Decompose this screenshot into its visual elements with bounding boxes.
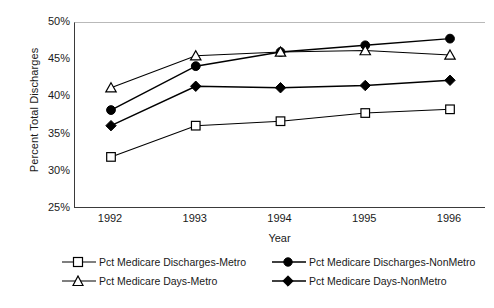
y-tick-label: 25% <box>34 202 70 213</box>
data-point <box>275 83 285 93</box>
x-tick-label: 1996 <box>437 212 461 224</box>
legend-label: Pct Medicare Days-Metro <box>99 275 217 287</box>
x-axis-tick-labels: 19921993199419951996 <box>74 212 485 228</box>
y-axis-tick-labels: 50% 45% 40% 35% 30% 25% <box>30 0 70 230</box>
plot-svg <box>75 23 486 209</box>
legend-label: Pct Medicare Discharges-NonMetro <box>309 256 475 268</box>
legend-label: Pct Medicare Discharges-Metro <box>99 256 246 268</box>
data-point <box>106 83 116 92</box>
y-tick-label: 30% <box>34 165 70 176</box>
data-point <box>276 117 285 126</box>
y-tick-label: 45% <box>34 53 70 64</box>
legend-item-days-nonmetro[interactable]: Pct Medicare Days-NonMetro <box>272 275 447 287</box>
filled-circle-icon <box>272 256 306 268</box>
legend-item-discharges-metro[interactable]: Pct Medicare Discharges-Metro <box>62 256 246 268</box>
data-point <box>361 109 370 118</box>
filled-diamond-icon <box>272 275 306 287</box>
plot-area <box>74 22 485 208</box>
open-square-icon <box>62 256 96 268</box>
chart-legend: Pct Medicare Discharges-Metro Pct Medica… <box>0 252 494 298</box>
data-point <box>446 34 455 43</box>
markers-open-square <box>107 105 455 161</box>
x-tick-label: 1992 <box>98 212 122 224</box>
data-point <box>360 80 370 90</box>
chart-container: Percent Total Discharges 50% 45% 40% 35%… <box>0 0 494 308</box>
y-tick-label: 40% <box>34 90 70 101</box>
y-tick-label: 50% <box>34 16 70 27</box>
data-point <box>446 105 455 114</box>
x-tick-label: 1995 <box>352 212 376 224</box>
x-tick-label: 1993 <box>183 212 207 224</box>
x-tick-label: 1994 <box>267 212 291 224</box>
data-point <box>106 120 116 130</box>
data-point <box>107 106 116 115</box>
data-point <box>191 81 201 91</box>
data-point <box>191 62 200 71</box>
data-point <box>107 153 116 162</box>
data-point <box>191 121 200 130</box>
open-triangle-icon <box>62 275 96 287</box>
x-axis-title: Year <box>74 232 485 244</box>
data-point <box>445 75 455 85</box>
y-tick-label: 35% <box>34 128 70 139</box>
legend-label: Pct Medicare Days-NonMetro <box>309 275 447 287</box>
legend-item-days-metro[interactable]: Pct Medicare Days-Metro <box>62 275 217 287</box>
legend-item-discharges-nonmetro[interactable]: Pct Medicare Discharges-NonMetro <box>272 256 475 268</box>
